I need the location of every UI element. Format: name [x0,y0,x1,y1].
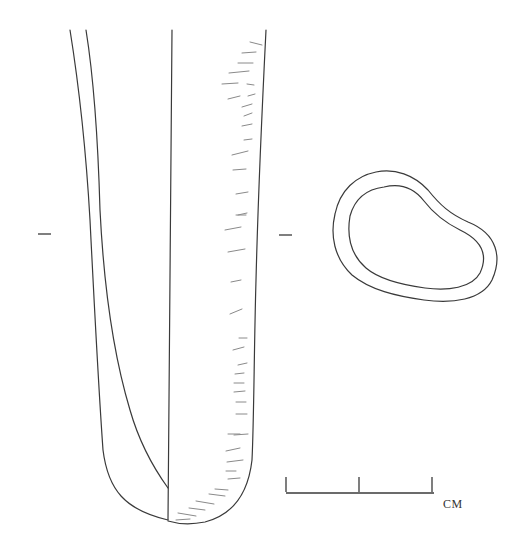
inner-left-edge [86,30,168,488]
scale-bar [286,477,434,493]
cross-section-view [333,171,497,302]
scale-bar-unit-label: CM [443,497,463,512]
surface-hatching [176,42,262,520]
cross-section-inner [349,186,484,289]
artifact-drawing [0,0,520,553]
outer-left-edge [70,30,168,520]
center-section-line [168,30,172,520]
profile-view [70,30,266,524]
